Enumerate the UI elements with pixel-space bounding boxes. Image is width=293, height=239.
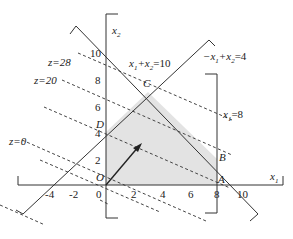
label-z20: z=20: [33, 74, 57, 86]
x-tick-10: 10: [237, 188, 249, 200]
y-tick-8: 8: [95, 74, 101, 86]
y-tick-10: 10: [90, 47, 102, 59]
x2-axis: [106, 14, 118, 218]
vertex-B: B: [219, 151, 226, 163]
label-z28: z=28: [47, 56, 71, 68]
label-x1-eq-8: x1=8: [222, 108, 244, 123]
x-tick-neg2: -2: [69, 188, 78, 200]
label-z0: z=0: [8, 135, 27, 147]
x-tick-0: 0: [96, 188, 102, 200]
label-neg-x1-plus-x2-eq-4: −x1+x2=4: [203, 50, 247, 65]
y-tick-2: 2: [95, 154, 101, 166]
vertex-O: O: [96, 171, 104, 183]
x-tick-8: 8: [214, 188, 220, 200]
x-tick-2: 2: [131, 188, 137, 200]
x2-axis-label: x2: [111, 24, 121, 39]
vertex-D: D: [95, 118, 104, 130]
y-tick-6: 6: [95, 101, 101, 113]
x-tick-6: 6: [188, 188, 194, 200]
lp-diagram: x2 x1 10 8 6 4 2 -4 -2 0 2 4 6 8 10 x1+x…: [0, 0, 293, 239]
vertex-C: C: [143, 77, 151, 89]
vertex-A: A: [217, 173, 225, 185]
x1-axis-label: x1: [269, 170, 278, 185]
x-tick-4: 4: [160, 188, 166, 200]
label-x1-plus-x2-eq-10: x1+x2=10: [128, 57, 171, 72]
x-tick-neg4: -4: [45, 188, 55, 200]
